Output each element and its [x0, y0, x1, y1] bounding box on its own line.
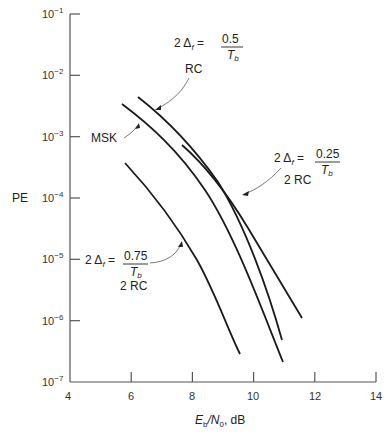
x-axis-title: Eb/N0, dB [195, 413, 245, 429]
svg-text:12: 12 [309, 390, 321, 402]
svg-text:6: 6 [128, 390, 134, 402]
svg-text:RC: RC [185, 62, 203, 76]
svg-text:2 Δf =: 2 Δf = [174, 36, 204, 52]
svg-text:Tb: Tb [227, 48, 239, 63]
svg-text:10: 10 [247, 390, 259, 402]
svg-text:2 Δf =: 2 Δf = [274, 151, 304, 167]
y-axis-title: PE [12, 191, 28, 205]
curve-2rc-025 [182, 145, 302, 318]
svg-text:0.5: 0.5 [222, 32, 239, 46]
svg-text:Tb: Tb [130, 265, 142, 280]
annotation-rc-05: 2 Δf = 0.5 Tb RC [155, 32, 243, 110]
annotation-2rc-075: 2 Δf = 0.75 Tb 2 RC [85, 241, 183, 293]
svg-text:10−4: 10−4 [42, 190, 64, 204]
pe-vs-ebn0-chart: 10−1 10−2 10−3 10−4 10−5 10−6 10−7 4 6 8… [0, 0, 390, 442]
annotation-msk: MSK [91, 123, 140, 145]
svg-text:8: 8 [189, 390, 195, 402]
svg-text:10−3: 10−3 [42, 129, 64, 143]
svg-text:Tb: Tb [321, 163, 333, 178]
x-tick-labels: 4 6 8 10 12 14 [65, 390, 382, 402]
svg-text:2 Δf =: 2 Δf = [85, 253, 115, 269]
svg-text:10−6: 10−6 [42, 313, 64, 327]
svg-text:10−2: 10−2 [42, 67, 64, 81]
svg-text:0.25: 0.25 [316, 147, 340, 161]
svg-text:0.75: 0.75 [124, 249, 148, 263]
svg-text:MSK: MSK [91, 131, 117, 145]
svg-text:10−7: 10−7 [42, 374, 64, 388]
svg-text:4: 4 [65, 390, 71, 402]
svg-text:10−5: 10−5 [42, 251, 64, 265]
y-tick-labels: 10−1 10−2 10−3 10−4 10−5 10−6 10−7 [42, 6, 64, 388]
curves [122, 97, 302, 362]
annotation-2rc-025: 2 Δf = 0.25 Tb 2 RC [242, 147, 340, 196]
svg-text:2 RC: 2 RC [284, 173, 312, 187]
svg-text:14: 14 [370, 390, 382, 402]
svg-text:2 RC: 2 RC [120, 279, 148, 293]
curve-msk [122, 104, 283, 362]
axes [70, 14, 376, 382]
svg-text:10−1: 10−1 [42, 6, 64, 20]
